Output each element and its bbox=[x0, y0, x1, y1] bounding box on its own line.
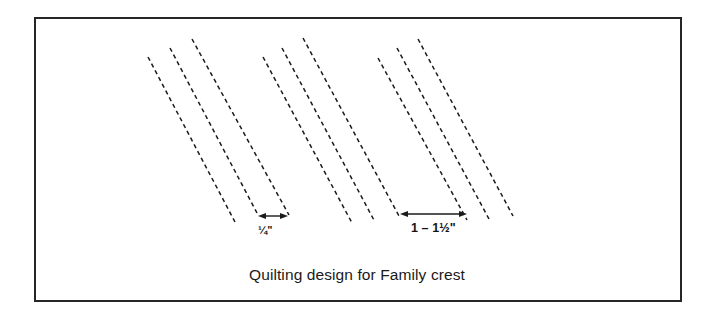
quilting-line-3-1 bbox=[378, 58, 467, 220]
quilting-line-1-3 bbox=[192, 39, 289, 215]
dimension-label-quarter-inch: ¼" bbox=[258, 224, 273, 236]
quilting-line-group-3 bbox=[378, 39, 513, 220]
quilting-line-1-1 bbox=[148, 57, 235, 222]
quilting-line-3-2 bbox=[397, 48, 489, 219]
quilting-line-3-3 bbox=[418, 39, 513, 216]
arrowhead-left-quarter-inch bbox=[258, 213, 266, 219]
quilting-line-2-1 bbox=[263, 57, 352, 223]
arrowhead-left-range-inch bbox=[400, 211, 408, 217]
quilting-line-2-3 bbox=[303, 38, 399, 216]
dimension-arrow-quarter-inch bbox=[258, 213, 288, 219]
quilting-line-group-2 bbox=[263, 38, 399, 223]
quilting-design-figure: ¼" 1 – 1½" Quilting design for Family cr… bbox=[0, 0, 714, 319]
arrowhead-right-quarter-inch bbox=[280, 213, 288, 219]
quilting-line-2-2 bbox=[282, 48, 375, 222]
dimension-arrow-range-inch bbox=[400, 211, 467, 217]
dimension-label-range-inch: 1 – 1½" bbox=[411, 221, 456, 235]
figure-caption: Quilting design for Family crest bbox=[0, 266, 714, 284]
quilting-line-1-2 bbox=[170, 48, 257, 213]
